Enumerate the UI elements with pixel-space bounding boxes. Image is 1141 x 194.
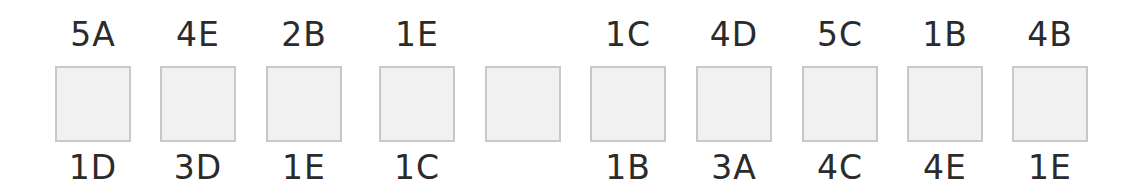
bottom-label: 3D bbox=[140, 151, 256, 184]
top-label: 4E bbox=[140, 18, 256, 51]
top-label: 4D bbox=[676, 18, 792, 51]
bottom-label: 4E bbox=[887, 151, 1003, 184]
bottom-label: 3A bbox=[676, 151, 792, 184]
empty-box[interactable] bbox=[696, 66, 772, 142]
top-label: 1C bbox=[570, 18, 686, 51]
cell-7: 4D 3A bbox=[696, 0, 772, 194]
empty-box[interactable] bbox=[485, 66, 561, 142]
bottom-label: 1C bbox=[359, 151, 475, 184]
empty-box[interactable] bbox=[802, 66, 878, 142]
empty-box[interactable] bbox=[379, 66, 455, 142]
bottom-label: 1D bbox=[35, 151, 151, 184]
cell-3: 2B 1E bbox=[266, 0, 342, 194]
top-label: 4B bbox=[992, 18, 1108, 51]
cell-4: 1E 1C bbox=[379, 0, 455, 194]
cell-5 bbox=[485, 0, 561, 194]
bottom-label: 4C bbox=[782, 151, 898, 184]
cell-1: 5A 1D bbox=[55, 0, 131, 194]
empty-box[interactable] bbox=[907, 66, 983, 142]
top-label: 5C bbox=[782, 18, 898, 51]
cell-2: 4E 3D bbox=[160, 0, 236, 194]
bottom-label: 1B bbox=[570, 151, 686, 184]
empty-box[interactable] bbox=[55, 66, 131, 142]
empty-box[interactable] bbox=[1012, 66, 1088, 142]
bottom-label: 1E bbox=[246, 151, 362, 184]
cell-9: 1B 4E bbox=[907, 0, 983, 194]
empty-box[interactable] bbox=[266, 66, 342, 142]
cell-6: 1C 1B bbox=[590, 0, 666, 194]
cell-8: 5C 4C bbox=[802, 0, 878, 194]
top-label: 1B bbox=[887, 18, 1003, 51]
empty-box[interactable] bbox=[160, 66, 236, 142]
empty-box[interactable] bbox=[590, 66, 666, 142]
top-label: 5A bbox=[35, 18, 151, 51]
cell-10: 4B 1E bbox=[1012, 0, 1088, 194]
top-label: 2B bbox=[246, 18, 362, 51]
top-label: 1E bbox=[359, 18, 475, 51]
bottom-label: 1E bbox=[992, 151, 1108, 184]
